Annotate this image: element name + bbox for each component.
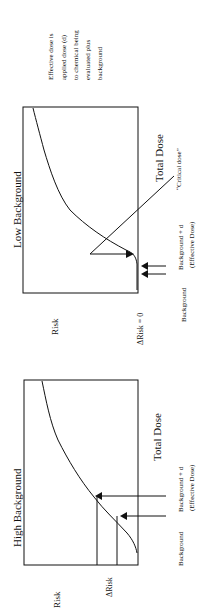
background-plus-d-label: Background + d	[177, 224, 185, 270]
background-label: Background	[180, 287, 188, 322]
effective-dose-note: Effective dose is applied dose (d) to ch…	[47, 30, 104, 80]
background-plus-d-label: Background + d	[177, 466, 185, 512]
panel-title: High Background	[11, 468, 23, 547]
plot-frame	[24, 380, 138, 565]
critical-dose-leader	[90, 176, 174, 254]
critical-dose-label: “Critical dose”	[175, 148, 183, 190]
panel-title: Low Background	[11, 171, 23, 248]
low-background-panel: Low Background “Critical dose” Total Dos…	[11, 107, 196, 345]
delta-risk-label: ΔRisk = 0	[136, 313, 145, 345]
arrow-background	[120, 512, 127, 520]
svg-text:Effective dose is: Effective dose is	[47, 33, 55, 80]
dose-response-diagram: Effective dose is applied dose (d) to ch…	[0, 0, 207, 616]
y-axis-label: Risk	[52, 591, 62, 608]
y-axis-label: Risk	[50, 318, 60, 335]
high-background-panel: High Background Total Dose Risk ΔRisk Ba…	[11, 380, 196, 608]
svg-text:evaluated plus: evaluated plus	[84, 39, 92, 80]
delta-risk-label: ΔRisk	[105, 577, 114, 597]
x-axis-label: Total Dose	[151, 413, 163, 461]
svg-text:to chemical being: to chemical being	[72, 30, 80, 80]
critical-dose-arrow	[126, 250, 134, 258]
svg-text:applied dose (d): applied dose (d)	[60, 34, 68, 80]
background-label: Background	[177, 531, 185, 566]
dose-response-curve	[33, 108, 137, 290]
effective-dose-label: (Effective Dose)	[188, 464, 196, 511]
dose-response-curve	[42, 381, 137, 553]
effective-dose-label: (Effective Dose)	[188, 221, 196, 268]
arrow-background	[141, 270, 148, 278]
x-axis-label: Total Dose	[153, 134, 165, 182]
arrow-background-plus-d	[141, 262, 148, 270]
svg-text:background: background	[96, 46, 104, 80]
